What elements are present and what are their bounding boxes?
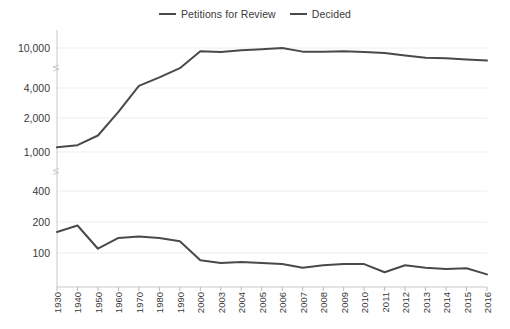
y-axis-tick-label: 100 [32,247,50,259]
axis-break-mark [53,169,59,175]
x-axis-tick-label: 1940 [72,292,83,313]
x-axis-tick-label: 2011 [380,292,391,312]
chart-legend: Petitions for Review Decided [0,4,510,24]
axis-break-mark [53,65,59,71]
x-axis-ticks [57,287,487,291]
x-axis-tick-label: 2006 [277,292,288,313]
x-axis-tick-label: 2014 [441,292,452,313]
y-axis-tick-label: 2,000 [24,112,50,124]
x-axis-tick-label: 2000 [195,292,206,313]
legend-item-decided[interactable]: Decided [290,8,351,20]
x-axis-tick-label: 1930 [52,292,63,313]
x-axis-tick-label: 2008 [318,292,329,313]
x-axis-tick-label: 2012 [400,292,411,313]
x-axis-tick-label: 1960 [113,292,124,313]
x-axis-tick-label: 2013 [421,292,432,313]
legend-label: Petitions for Review [181,8,276,20]
series-line [57,48,487,147]
axis-lines [57,30,487,287]
line-swatch-icon [159,13,176,16]
y-axis-labels: 1002004001,0002,0004,00010,000 [0,30,50,287]
x-axis-tick-label: 2007 [298,292,309,313]
plot-area [57,30,487,287]
x-axis-tick-label: 2004 [236,292,247,313]
data-series [57,48,487,274]
x-axis-tick-label: 2010 [359,292,370,313]
x-axis-tick-label: 1980 [154,292,165,313]
x-axis-tick-label: 1950 [93,292,104,313]
x-axis-tick-label: 2015 [462,292,473,313]
line-chart: Petitions for Review Decided 1002004001,… [0,0,510,329]
legend-item-petitions-for-review[interactable]: Petitions for Review [159,8,276,20]
y-axis-tick-label: 400 [32,185,50,197]
y-axis-tick-label: 10,000 [18,42,50,54]
x-axis-tick-label: 2009 [339,292,350,313]
y-axis-tick-label: 1,000 [24,146,50,158]
x-axis-tick-label: 1970 [134,292,145,313]
gridlines [57,48,487,253]
x-axis-tick-label: 2005 [257,292,268,313]
y-axis-tick-label: 200 [32,216,50,228]
x-axis-tick-label: 2016 [482,292,493,313]
x-axis-labels: 1930194019501960197019801990200020032004… [57,292,487,329]
x-axis-tick-label: 2003 [216,292,227,313]
axis-break-marks [53,65,59,175]
y-axis-tick-label: 4,000 [24,82,50,94]
legend-label: Decided [312,8,351,20]
line-swatch-icon [290,13,307,16]
series-line [57,225,487,274]
x-axis-tick-label: 1990 [175,292,186,313]
plot-svg [57,30,487,287]
